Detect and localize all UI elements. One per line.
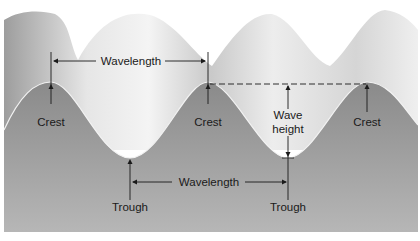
- wave-height-label-line1: Wave: [274, 109, 303, 122]
- wave-height-label-line2: height: [272, 123, 303, 136]
- trough-label-1: Trough: [112, 201, 148, 214]
- wavelength-label-top: Wavelength: [99, 55, 163, 68]
- water-profile: [4, 82, 418, 241]
- wavelength-label-bottom: Wavelength: [177, 176, 241, 189]
- crest-label-2: Crest: [194, 116, 221, 129]
- wave-diagram: Wavelength Crest Crest Crest Wave height…: [0, 0, 420, 241]
- crest-label-3: Crest: [353, 116, 380, 129]
- crest-label-1: Crest: [37, 116, 64, 129]
- trough-label-2: Trough: [270, 201, 306, 214]
